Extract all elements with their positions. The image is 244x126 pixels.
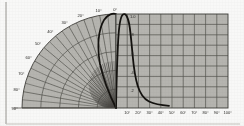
polar-angle-label-30: 30° (62, 20, 69, 25)
polar-angle-label-50: 50° (35, 41, 42, 46)
chart-svg: 0° 10° 20° 30° 40° 50° 60° 70° 80° 90° (0, 0, 244, 126)
x-tick-label-60: 60° (180, 110, 186, 115)
y-tick-label-1: 1.0 (130, 14, 136, 19)
polar-angle-label-70: 70° (18, 71, 25, 76)
polar-angle-label-10: 10° (96, 8, 103, 13)
x-tick-label-40: 40° (158, 110, 164, 115)
polar-angle-label-80: 80° (14, 87, 21, 92)
x-tick-label-50: 50° (169, 110, 175, 115)
figure-canvas: 0° 10° 20° 30° 40° 50° 60° 70° 80° 90° (0, 0, 244, 126)
polar-angle-label-60: 60° (25, 55, 32, 60)
polar-angle-label-90: 90° (12, 106, 19, 111)
x-tick-label-10: 10° (124, 110, 130, 115)
cartesian-x-labels: 10° 20° 30° 40° 50° 60° 70° 80° 90° 100° (124, 110, 232, 115)
x-tick-label-100: 100° (223, 110, 232, 115)
polar-angle-label-20: 20° (78, 13, 85, 18)
polar-angle-label-0: 0° (113, 7, 117, 12)
x-tick-label-90: 90° (214, 110, 220, 115)
x-tick-label-30: 30° (147, 110, 153, 115)
x-tick-label-20: 20° (135, 110, 141, 115)
cartesian-plot: 1.0 .8 .6 .4 .2 10° 20° 30° 40° 50° 60° … (116, 14, 232, 115)
polar-angle-label-40: 40° (47, 29, 54, 34)
x-tick-label-70: 70° (191, 110, 197, 115)
x-tick-label-80: 80° (203, 110, 209, 115)
